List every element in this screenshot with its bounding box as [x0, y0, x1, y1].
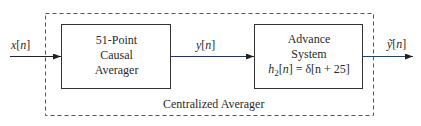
block-line: System [255, 47, 363, 62]
input-signal-label: x[n] [11, 38, 30, 52]
group-label: Centralized Averager [163, 97, 264, 111]
causal-averager-text: 51-Point Causal Averager [62, 33, 171, 78]
output-signal-label: ỹ[n] [387, 37, 406, 51]
block-line: Averager [62, 63, 171, 78]
intermediate-signal-label: y[n] [196, 38, 215, 52]
impulse-response-equation: h2[n] = δ[n + 25] [255, 62, 363, 81]
block-line: Causal [62, 48, 171, 63]
block-line: 51-Point [62, 33, 171, 48]
advance-system-text: Advance System h2[n] = δ[n + 25] [255, 32, 363, 81]
block-line: Advance [255, 32, 363, 47]
